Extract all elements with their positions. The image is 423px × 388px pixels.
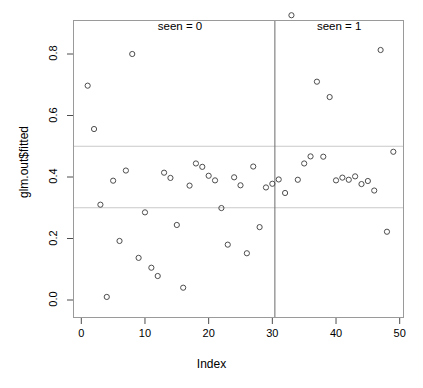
data-point	[263, 185, 268, 190]
data-point	[340, 175, 345, 180]
x-axis-title: Index	[0, 357, 423, 371]
data-point	[136, 255, 141, 260]
data-point	[206, 173, 211, 178]
data-point	[130, 51, 135, 56]
data-point	[212, 178, 217, 183]
data-point	[142, 210, 147, 215]
data-point	[104, 294, 109, 299]
data-point	[295, 177, 300, 182]
data-point	[181, 285, 186, 290]
data-point	[327, 94, 332, 99]
y-tick-label: 0.2	[47, 224, 59, 252]
data-point	[384, 229, 389, 234]
data-point	[85, 83, 90, 88]
data-point	[257, 225, 262, 230]
y-tick-label: 0.4	[47, 162, 59, 190]
data-point	[174, 222, 179, 227]
data-point	[111, 178, 116, 183]
data-point	[98, 202, 103, 207]
data-point	[359, 181, 364, 186]
x-tick-label: 50	[385, 327, 415, 339]
data-point	[333, 178, 338, 183]
data-point	[251, 164, 256, 169]
data-point	[289, 13, 294, 18]
data-point	[225, 242, 230, 247]
x-tick-label: 10	[130, 327, 160, 339]
data-points	[85, 13, 396, 300]
data-point	[187, 183, 192, 188]
data-point	[314, 79, 319, 84]
data-point	[193, 161, 198, 166]
data-point	[321, 154, 326, 159]
y-tick-label: 0.6	[47, 101, 59, 129]
horizontal-reference-lines	[74, 146, 403, 208]
data-point	[302, 161, 307, 166]
group-label-annotation: seen = 0	[158, 20, 202, 32]
y-axis-title: glm.out$fitted	[17, 102, 31, 222]
group-label-annotation: seen = 1	[317, 20, 361, 32]
data-point	[270, 181, 275, 186]
data-point	[123, 168, 128, 173]
data-point	[372, 188, 377, 193]
data-point	[391, 149, 396, 154]
scatter-plot-figure: 01020304050 0.00.20.40.60.8 seen = 0seen…	[0, 0, 423, 388]
data-point	[244, 251, 249, 256]
data-point	[353, 174, 358, 179]
x-axis-tick-marks	[81, 318, 399, 324]
data-point	[149, 265, 154, 270]
y-tick-label: 0.8	[47, 39, 59, 67]
data-point	[282, 190, 287, 195]
data-point	[161, 170, 166, 175]
data-point	[232, 175, 237, 180]
y-tick-label: 0.0	[47, 285, 59, 313]
data-point	[238, 183, 243, 188]
y-axis-tick-marks	[67, 54, 73, 300]
x-tick-label: 0	[66, 327, 96, 339]
data-point	[308, 154, 313, 159]
data-point	[346, 177, 351, 182]
data-point	[168, 175, 173, 180]
data-point	[117, 238, 122, 243]
x-tick-label: 20	[194, 327, 224, 339]
data-point	[378, 47, 383, 52]
data-point	[155, 273, 160, 278]
data-point	[91, 126, 96, 131]
data-point	[365, 178, 370, 183]
data-point	[276, 177, 281, 182]
x-tick-label: 40	[321, 327, 351, 339]
x-tick-label: 30	[257, 327, 287, 339]
data-point	[200, 164, 205, 169]
